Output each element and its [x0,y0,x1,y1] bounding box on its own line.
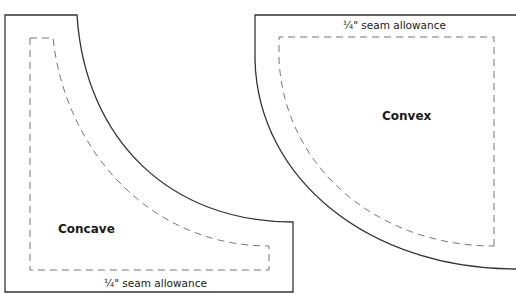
pattern-diagram [0,0,516,294]
convex-label: Convex [382,109,431,123]
concave-seam-label: ¼" seam allowance [104,277,207,289]
convex-cut-line [255,15,516,269]
concave-label: Concave [58,222,115,236]
concave-cut-line [5,15,293,292]
convex-seam-label: ¼" seam allowance [343,19,446,31]
convex-seam-line [279,37,494,246]
